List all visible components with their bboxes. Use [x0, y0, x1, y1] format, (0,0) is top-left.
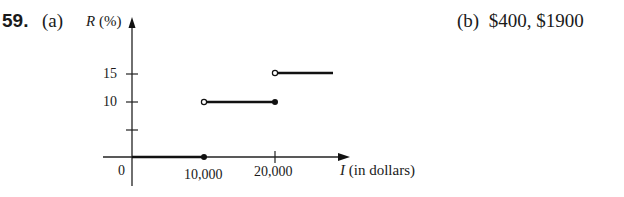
closed-dot-10000-0 — [201, 154, 207, 160]
x-tick-label-0: 0 — [118, 163, 125, 179]
y-axis-arrow-icon — [129, 17, 136, 28]
x-axis-variable: I — [340, 162, 345, 178]
x-tick-label-10000: 10,000 — [184, 167, 223, 183]
x-axis-arrow-icon — [338, 153, 350, 161]
x-axis-label: I (in dollars) — [340, 162, 415, 179]
x-axis-unit: (in dollars) — [349, 162, 415, 178]
closed-dot-20000-10 — [272, 99, 278, 105]
x-tick-label-20000: 20,000 — [254, 164, 293, 180]
open-dot-20000-15 — [272, 70, 277, 75]
y-tick-label-15: 15 — [103, 66, 117, 82]
open-dot-10000-10 — [201, 99, 206, 104]
y-tick-label-10: 10 — [103, 94, 117, 110]
step-function-chart — [0, 0, 624, 197]
